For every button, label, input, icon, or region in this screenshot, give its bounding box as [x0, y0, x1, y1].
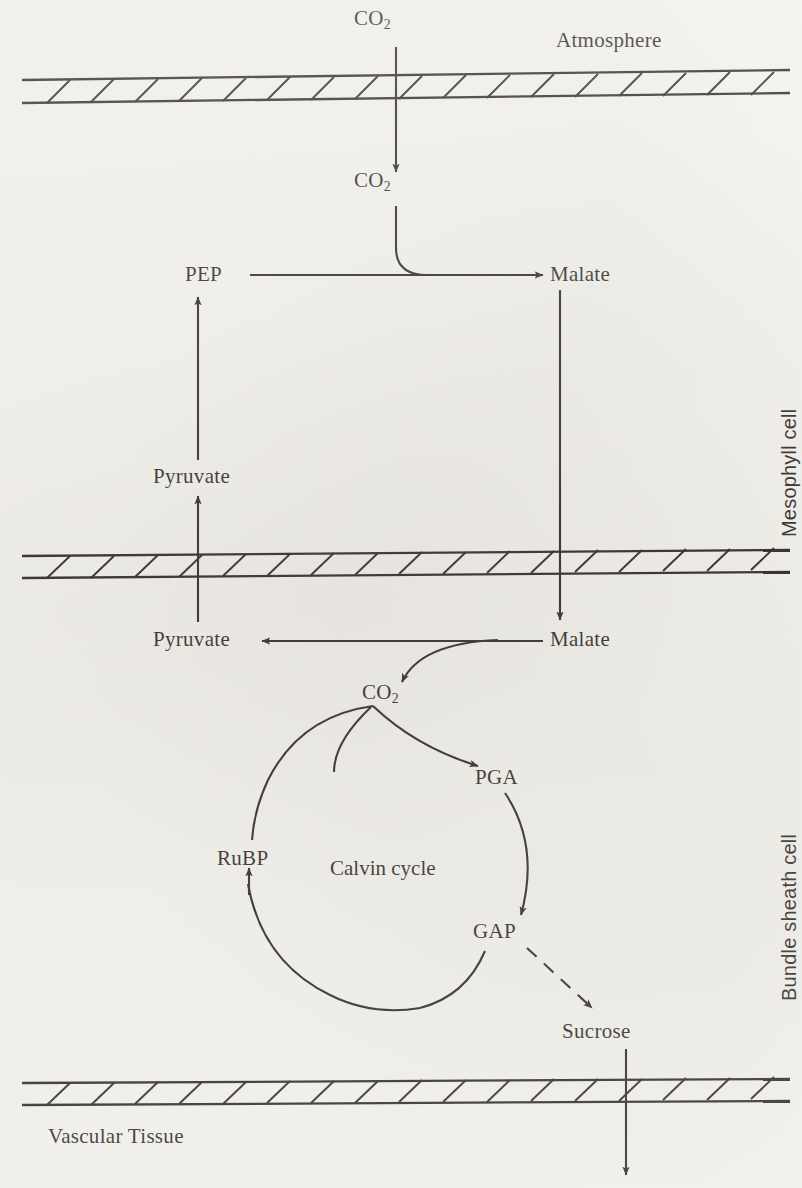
node-sucrose: Sucrose: [562, 1019, 631, 1044]
cycle-arc-gap-to-lowerleft: [420, 951, 485, 1008]
membrane-bottom: [22, 1077, 790, 1105]
region-label-atmosphere: Atmosphere: [556, 28, 662, 53]
node-co2-mesophyll: CO2: [354, 168, 391, 195]
node-malate-bundle: Malate: [550, 627, 610, 652]
node-pyruvate-bundle: Pyruvate: [153, 627, 230, 652]
arrow-malate-to-co2: [402, 640, 498, 682]
node-pyruvate-mesophyll: Pyruvate: [153, 464, 230, 489]
arrow-gap-to-sucrose: [527, 948, 592, 1008]
region-label-bundle-sheath-cell: Bundle sheath cell: [778, 834, 801, 1001]
node-co2-atmosphere: CO2: [354, 6, 391, 33]
membrane-top: [22, 70, 790, 103]
node-pep: PEP: [185, 262, 222, 287]
arrow-co2-to-malate: [396, 206, 470, 275]
membrane-middle: [22, 548, 790, 578]
node-gap: GAP: [473, 919, 516, 944]
node-co2-bundle: CO2: [362, 680, 399, 707]
region-label-mesophyll-cell: Mesophyll cell: [778, 409, 801, 537]
arrow-co2-into-cycle: [373, 706, 478, 766]
diagram-canvas: CO2 Atmosphere CO2 PEP Malate Pyruvate P…: [0, 0, 802, 1188]
calvin-cycle-caption: Calvin cycle: [330, 856, 436, 881]
cycle-arc-lower-left: [248, 884, 420, 1010]
cycle-arc-upper-left: [252, 706, 373, 840]
pathway-svg: [0, 0, 802, 1188]
region-label-vascular-tissue: Vascular Tissue: [48, 1124, 184, 1149]
node-malate-mesophyll: Malate: [550, 262, 610, 287]
node-rubp: RuBP: [217, 846, 268, 871]
node-pga: PGA: [475, 765, 518, 790]
arrow-pga-to-gap: [505, 793, 528, 915]
arrow-co2-to-pga: [334, 707, 371, 772]
